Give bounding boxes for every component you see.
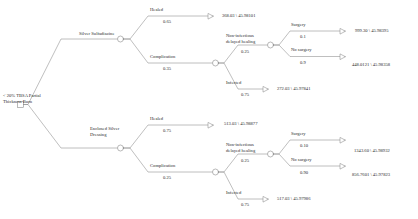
branch-label-esd-healed: Healed xyxy=(150,116,163,122)
chance-node-enclosed-silver-dressing[interactable] xyxy=(118,145,124,151)
branch-prob-ss-surgery: 0.1 xyxy=(300,34,306,40)
branch-prob-esd-noninfectious: 0.25 xyxy=(241,158,249,164)
terminal-payoff-ss-surgery: 999.30 \ 45.98395 xyxy=(355,28,388,34)
terminal-node-esd-healed[interactable] xyxy=(208,122,213,127)
branch-prob-ss-healed: 0.65 xyxy=(163,19,171,25)
terminal-payoff-ss-healed: 368.03 \ 45.98101 xyxy=(222,13,255,19)
terminal-payoff-esd-infected: 517.03 \ 45.97986 xyxy=(277,196,310,202)
chance-node-silver-sulfadiazine[interactable] xyxy=(118,36,124,42)
branch-label-silver-sulfadiazine: Silver Sulfadiazine xyxy=(79,31,114,37)
branch-label-enclosed-silver-dressing: Enclosed Silver Dressing xyxy=(90,126,119,137)
edge-ss-surgery xyxy=(274,31,346,45)
terminal-node-ss-healed[interactable] xyxy=(208,13,213,18)
terminal-payoff-esd-healed: 513.03 \ 45.98877 xyxy=(224,121,257,127)
branch-prob-ss-complication: 0.35 xyxy=(163,66,171,72)
terminal-node-esd-no-surgery[interactable] xyxy=(340,163,345,168)
terminal-payoff-ss-no-surgery: 448.0121 \ 45.98358 xyxy=(352,62,390,68)
branch-prob-esd-healed: 0.75 xyxy=(163,128,171,134)
branch-label-esd-complication: Complication xyxy=(150,163,175,169)
branch-label-esd-infected: Infected xyxy=(226,190,241,196)
terminal-payoff-esd-surgery: 1343.60 \ 45.98932 xyxy=(354,148,390,154)
terminal-node-ss-no-surgery[interactable] xyxy=(340,54,345,59)
branch-label-esd-no-surgery: No surgery xyxy=(291,157,312,163)
terminal-node-ss-surgery[interactable] xyxy=(340,28,345,33)
terminal-node-esd-surgery[interactable] xyxy=(340,137,345,142)
edge-esd-surgery xyxy=(274,140,346,154)
branch-label-ss-no-surgery: No surgery xyxy=(291,47,312,53)
chance-node-esd-noninfectious[interactable] xyxy=(268,151,274,157)
terminal-node-ss-infected[interactable] xyxy=(263,86,268,91)
branch-prob-ss-infected: 0.75 xyxy=(241,92,249,98)
branch-label-ss-healed: Healed xyxy=(150,7,163,13)
chance-node-ss-complication[interactable] xyxy=(213,60,219,66)
terminal-payoff-ss-infected: 272.03 \ 45.97841 xyxy=(277,86,310,92)
terminal-payoff-esd-no-surgery: 856.7601 \ 45.97823 xyxy=(352,172,390,178)
branch-prob-ss-noninfectious: 0.25 xyxy=(241,49,249,55)
chance-node-ss-noninfectious[interactable] xyxy=(268,42,274,48)
branch-label-ss-infected: Infected xyxy=(226,80,241,86)
branch-prob-esd-infected: 0.75 xyxy=(241,202,249,208)
terminal-node-esd-infected[interactable] xyxy=(263,196,268,201)
branch-label-ss-surgery: Surgery xyxy=(291,22,306,28)
branch-label-esd-noninfectious: Non-infectious delayed healing xyxy=(226,142,255,153)
branch-prob-esd-no-surgery: 0.90 xyxy=(300,170,308,176)
root-node-label: < 20% TBSA Partial Thickness Burn xyxy=(3,93,41,105)
branch-prob-esd-complication: 0.25 xyxy=(163,175,171,181)
branch-label-esd-surgery: Surgery xyxy=(291,131,306,137)
branch-prob-ss-no-surgery: 0.9 xyxy=(300,60,306,66)
chance-node-esd-complication[interactable] xyxy=(213,169,219,175)
branch-prob-esd-surgery: 0.10 xyxy=(300,143,308,149)
branch-label-ss-noninfectious: Non-infectious delayed healing xyxy=(226,33,255,44)
branch-label-ss-complication: Complication xyxy=(150,54,175,60)
